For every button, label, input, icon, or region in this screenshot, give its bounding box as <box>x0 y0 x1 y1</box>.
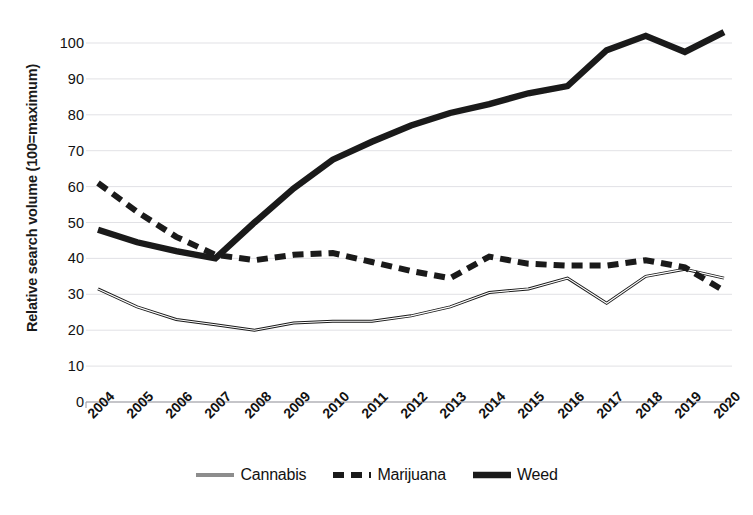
series-line-weed <box>98 32 724 258</box>
legend-label: Cannabis <box>240 466 306 484</box>
legend-swatch-weed <box>472 468 512 482</box>
chart-legend: CannabisMarijuanaWeed <box>0 466 753 484</box>
plot-area <box>86 30 732 415</box>
plot-svg <box>86 30 732 415</box>
y-tick-label: 70 <box>68 143 84 158</box>
legend-label: Weed <box>517 466 558 484</box>
legend-item-marijuana[interactable]: Marijuana <box>332 466 445 484</box>
line-chart: Relative search volume (100=maximum) 010… <box>0 0 753 515</box>
y-tick-label: 30 <box>68 287 84 302</box>
y-tick-label: 100 <box>60 36 84 51</box>
y-tick-label: 90 <box>68 72 84 87</box>
legend-swatch-cannabis <box>195 468 235 482</box>
legend-item-cannabis[interactable]: Cannabis <box>195 466 306 484</box>
y-tick-label: 10 <box>68 359 84 374</box>
series-line-core-cannabis <box>98 269 724 330</box>
y-axis-title: Relative search volume (100=maximum) <box>24 18 40 378</box>
series-line-marijuana <box>98 183 724 291</box>
y-tick-label: 80 <box>68 108 84 123</box>
y-axis-tick-labels: 0102030405060708090100 <box>40 30 84 415</box>
legend-label: Marijuana <box>377 466 445 484</box>
y-tick-label: 60 <box>68 179 84 194</box>
y-tick-label: 50 <box>68 215 84 230</box>
y-tick-label: 40 <box>68 251 84 266</box>
y-tick-label: 20 <box>68 323 84 338</box>
legend-item-weed[interactable]: Weed <box>472 466 558 484</box>
y-tick-label: 0 <box>76 395 84 410</box>
legend-swatch-marijuana <box>332 468 372 482</box>
